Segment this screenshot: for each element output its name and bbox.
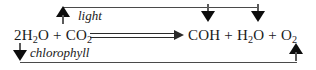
reaction-arrow-line-top [90,33,176,34]
product-marker-arrow-2-icon [251,4,265,22]
product-oxygen: O2 [281,27,297,44]
reaction-arrowhead [174,30,184,40]
arrowhead [201,11,215,22]
product-oxygen-subscript: 2 [292,33,297,44]
product-plus-sign-1: + [220,27,237,44]
reactant-plus-sign: + [49,27,66,44]
product-water-element-o: O [253,27,264,43]
arrow-stem [62,15,64,24]
reactant-water-coefficient: 2 [14,27,22,43]
reactant-co2-element: CO [66,27,87,43]
reaction-arrow-icon [90,24,186,46]
arrowhead [251,11,265,22]
chemical-equation: 2H2O + CO2 COH + H2O + O2 [0,24,316,46]
product-water-element-h: H [237,27,248,43]
product-plus-sign-2: + [264,27,281,44]
reactants-group: 2H2O + CO2 [14,24,92,46]
reaction-arrow-line-bottom [90,37,176,38]
reactant-water: 2H2O [14,27,49,44]
product-marker-arrow-1-icon [201,4,215,22]
reactant-water-element-h: H [22,27,33,43]
product-water: H2O [237,27,264,44]
light-label: light [78,8,102,24]
reactant-carbon-dioxide: CO2 [66,27,93,44]
arrowhead [13,50,27,61]
reactant-water-element-o: O [38,27,49,43]
products-group: COH + H2O + O2 [188,24,297,46]
light-input-arrow-icon [56,6,70,24]
product-oxygen-element: O [281,27,292,43]
photosynthesis-equation-diagram: light chlorophyll 2H2O + CO2 COH + [0,0,316,70]
product-coh: COH [188,27,220,44]
chlorophyll-label: chlorophyll [30,45,89,61]
arrow-stem [295,52,297,61]
bottom-bracket-line [20,62,297,63]
